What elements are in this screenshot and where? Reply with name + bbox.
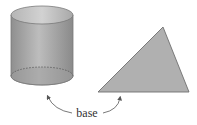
base-label: base xyxy=(76,106,97,120)
cylinder-shape xyxy=(11,6,73,85)
cylinder-top-ellipse xyxy=(11,6,73,24)
triangle-shape xyxy=(98,27,189,92)
arrow-to-cylinder-base xyxy=(48,97,72,113)
diagram-canvas: base xyxy=(0,0,197,125)
arrow-to-triangle-base xyxy=(103,98,120,113)
